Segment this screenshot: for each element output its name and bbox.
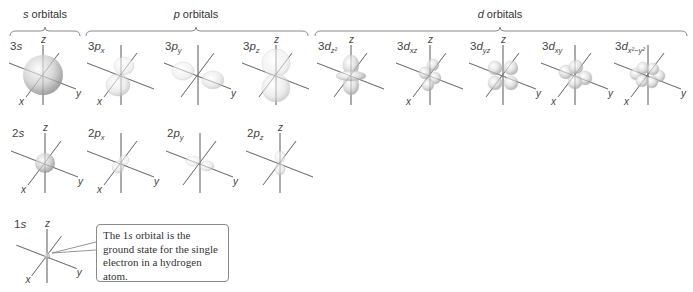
orbital-label-3dxz: 3dxz	[397, 40, 418, 55]
x-axis-label: x	[20, 184, 27, 195]
y-axis-label: y	[535, 88, 542, 99]
orbital-label-3dxy: 3dxy	[542, 40, 564, 55]
x-axis-label: x	[623, 96, 630, 107]
bracket-p-orbitals: p orbitals	[86, 8, 308, 36]
orbital-3pz: z3pz	[242, 34, 309, 105]
y-axis-label: y	[232, 176, 239, 187]
orbital-2py: y2py	[166, 127, 239, 193]
z-axis-label: z	[44, 218, 50, 229]
group-title-d: d orbitals	[478, 8, 523, 20]
z-axis-label: z	[40, 34, 46, 45]
orbital-3py: y3py	[164, 40, 237, 105]
callout-pointer	[52, 242, 96, 253]
orbital-label-3py: 3py	[165, 40, 183, 55]
orbital-label-3dyz: 3dyz	[470, 40, 491, 55]
orbital-label-3s: 3s	[10, 40, 22, 52]
y-axis-label: y	[607, 88, 614, 99]
group-brackets: s orbitalsp orbitalsd orbitals	[10, 8, 687, 36]
y-axis-label: y	[680, 88, 687, 99]
x-axis-line	[104, 141, 137, 185]
x-axis-label: x	[405, 96, 412, 107]
y-axis-label: y	[77, 176, 84, 187]
orbital-label-2py: 2py	[167, 127, 185, 142]
callout-text-before: The 1	[103, 229, 128, 241]
x-axis-line	[486, 53, 519, 97]
orbital-label-2s: 2s	[12, 127, 24, 139]
orbital-3dxy: yx3dxy	[541, 40, 614, 107]
z-axis-label: z	[500, 34, 506, 45]
group-title-s: s orbitals	[23, 8, 68, 20]
x-axis-line	[263, 141, 296, 185]
x-axis-label: x	[18, 96, 25, 107]
orbital-3s: zyx3s	[9, 34, 82, 107]
x-axis-label: x	[96, 96, 103, 107]
y-axis-line	[87, 151, 154, 177]
group-title-p: p orbitals	[173, 8, 219, 20]
z-axis-label: z	[427, 34, 433, 45]
y-axis-label: y	[153, 176, 160, 187]
orbital-label-3dz2: 3dz²	[318, 40, 338, 55]
orbital-3dxz: zx3dxz	[396, 34, 463, 107]
orbital-label-2pz: 2pz	[247, 127, 264, 142]
bracket-d-orbitals: d orbitals	[315, 8, 687, 36]
orbital-label-1s: 1s	[14, 218, 26, 230]
orbital-label-3pz: 3pz	[243, 40, 260, 55]
y-axis-label: y	[75, 88, 82, 99]
hydrogen-1s-callout: The 1s orbital is the ground state for t…	[96, 224, 229, 282]
orbital-3px: x3px	[87, 40, 154, 107]
z-axis-label: z	[348, 34, 354, 45]
y-axis-label: y	[230, 88, 237, 99]
orbital-label-3dx2-y2: 3dx²−y²	[615, 40, 645, 55]
z-axis-label: z	[42, 122, 48, 133]
orbital-2px: yx2px	[87, 127, 160, 195]
x-axis-label: x	[550, 96, 557, 107]
x-axis-line	[28, 141, 61, 185]
orbital-2s: zyx2s	[11, 122, 84, 195]
orbital-3dz2: z3dz²	[317, 34, 384, 105]
orbital-label-3px: 3px	[88, 40, 105, 55]
orbital-label-2px: 2px	[88, 127, 105, 142]
bracket-s-orbitals: s orbitals	[10, 8, 80, 36]
orbital-3dyz: zy3dyz	[469, 34, 542, 105]
x-axis-label: x	[96, 184, 103, 195]
z-axis-label: z	[277, 122, 283, 133]
orbital-2pz: z2pz	[246, 122, 313, 193]
y-axis-label: y	[76, 267, 83, 278]
x-axis-label: x	[24, 274, 31, 285]
z-axis-label: z	[273, 34, 279, 45]
y-axis-line	[469, 63, 536, 89]
orbital-3dx2-y2: yx3dx²−y²	[614, 40, 687, 107]
y-axis-line	[166, 151, 233, 177]
